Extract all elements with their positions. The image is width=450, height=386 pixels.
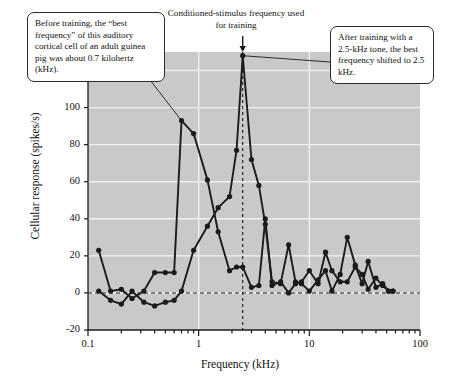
data-point-before-training (329, 268, 334, 273)
data-point-after-training (96, 288, 101, 293)
data-point-before-training (323, 250, 328, 255)
data-point-after-training (152, 303, 157, 308)
data-point-after-training (205, 224, 210, 229)
y-axis-title: Cellular response (spikes/s) (29, 81, 41, 271)
y-tick-label: 20 (46, 249, 80, 260)
data-point-after-training (256, 183, 261, 188)
y-tick-label: 60 (46, 175, 80, 186)
data-point-before-training (152, 270, 157, 275)
data-point-after-training (286, 242, 291, 247)
y-tick-label: 0 (46, 286, 80, 297)
data-point-before-training (216, 229, 221, 234)
data-point-after-training (380, 281, 385, 286)
data-point-after-training (353, 263, 358, 268)
x-tick-label: 0.1 (68, 338, 108, 349)
y-tick-label: 100 (46, 101, 80, 112)
data-point-after-training (278, 281, 283, 286)
data-point-before-training (307, 268, 312, 273)
data-point-before-training (129, 296, 134, 301)
data-point-before-training (141, 288, 146, 293)
data-point-after-training (269, 279, 274, 284)
data-point-after-training (360, 281, 365, 286)
x-tick-label: 1 (179, 338, 219, 349)
data-point-after-training (249, 157, 254, 162)
data-point-after-training (329, 288, 334, 293)
data-point-before-training (172, 270, 177, 275)
data-point-before-training (366, 287, 371, 292)
x-axis-title: Frequency (kHz) (150, 358, 330, 370)
data-point-before-training (234, 264, 239, 269)
callout-conditioned-stimulus-text: Conditioned-stimulus frequency used for … (168, 8, 304, 30)
callout-after-training: After training with a 2.5-kHz tone, the … (330, 26, 434, 84)
data-point-after-training (141, 300, 146, 305)
data-point-before-training (108, 288, 113, 293)
data-point-after-training (234, 148, 239, 153)
figure-container: Before training, the “best frequency” of… (0, 0, 450, 386)
callout-conditioned-stimulus: Conditioned-stimulus frequency used for … (166, 8, 306, 31)
data-point-before-training (191, 131, 196, 136)
callout-before-training-text: Before training, the “best frequency” of… (35, 18, 145, 74)
data-point-after-training (373, 285, 378, 290)
data-point-before-training (119, 287, 124, 292)
data-point-before-training (345, 279, 350, 284)
data-point-after-training (307, 288, 312, 293)
data-point-before-training (286, 290, 291, 295)
data-point-after-training (390, 288, 395, 293)
data-point-after-training (108, 298, 113, 303)
data-point-after-training (323, 268, 328, 273)
data-point-after-training (366, 259, 371, 264)
data-point-after-training (172, 298, 177, 303)
data-point-before-training (96, 248, 101, 253)
y-tick-label: 80 (46, 138, 80, 149)
arrowhead-icon (240, 46, 246, 52)
data-point-after-training (338, 272, 343, 277)
data-point-after-training (299, 281, 304, 286)
data-point-after-training (179, 288, 184, 293)
data-point-after-training (345, 235, 350, 240)
callout-before-training: Before training, the “best frequency” of… (27, 12, 165, 82)
data-point-before-training (249, 285, 254, 290)
data-point-after-training (129, 288, 134, 293)
data-point-after-training (293, 279, 298, 284)
data-point-before-training (240, 264, 245, 269)
data-point-before-training (227, 268, 232, 273)
data-point-after-training (119, 301, 124, 306)
data-point-after-training (191, 248, 196, 253)
data-point-after-training (216, 205, 221, 210)
data-point-after-training (263, 222, 268, 227)
data-point-before-training (163, 270, 168, 275)
data-point-after-training (163, 300, 168, 305)
y-tick-label: 40 (46, 212, 80, 223)
x-tick-label: 100 (400, 338, 440, 349)
data-point-after-training (227, 194, 232, 199)
data-point-after-training (316, 277, 321, 282)
data-point-before-training (205, 177, 210, 182)
x-tick-label: 10 (289, 338, 329, 349)
callout-after-training-text: After training with a 2.5-kHz tone, the … (338, 32, 424, 77)
data-point-before-training (256, 283, 261, 288)
y-tick-label: -20 (46, 323, 80, 334)
